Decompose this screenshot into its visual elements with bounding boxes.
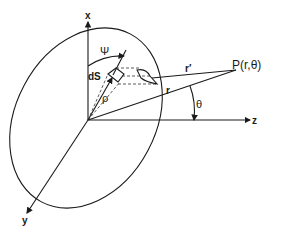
theta-arc: [190, 86, 195, 120]
rho-line: [88, 78, 112, 120]
r-label: r: [166, 85, 170, 96]
y-axis: [27, 120, 88, 213]
dS-label: dS: [88, 71, 101, 82]
rho-label: ρ: [102, 92, 108, 104]
diagram-canvas: x z y Ψ dS ρ r′ r P(r,θ) θ: [0, 0, 281, 240]
aperture-ellipse: [0, 1, 192, 234]
psi-label: Ψ: [100, 45, 109, 57]
projected-element: [137, 70, 157, 84]
r-prime-label: r′: [185, 63, 192, 74]
x-axis-label: x: [85, 10, 91, 21]
z-axis-label: z: [252, 115, 257, 126]
theta-label: θ: [196, 98, 202, 110]
y-axis-label: y: [22, 215, 28, 226]
point-P-label: P(r,θ): [232, 58, 261, 72]
